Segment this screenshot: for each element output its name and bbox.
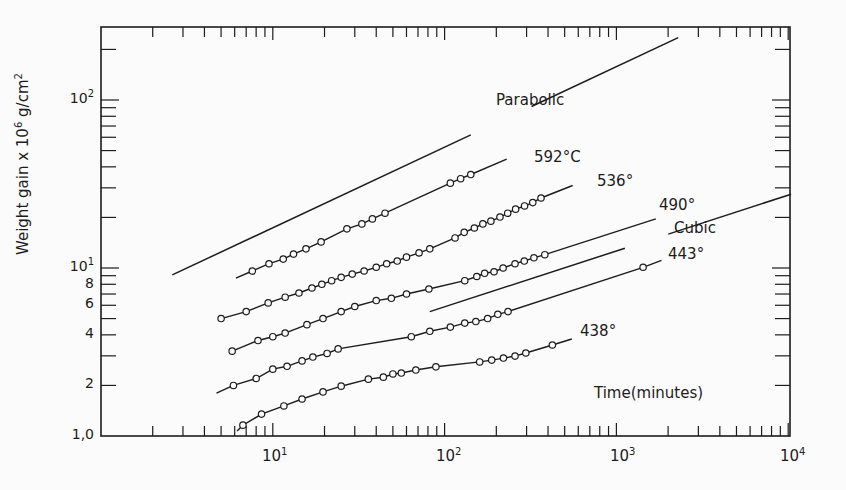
data-point [373,264,379,270]
data-point [500,355,506,361]
label-438: 438° [580,322,616,340]
data-point [426,286,432,292]
y-tick-label-10: 101 [54,258,94,274]
data-point [538,195,544,201]
data-point [521,258,527,264]
data-point [369,216,375,222]
data-point [521,203,527,209]
data-point [338,274,344,280]
y-axis-label: Weight gain x 106 g/cm2 [14,73,32,255]
data-point [229,348,235,354]
series-line [221,186,572,319]
y-tick-label-100: 102 [54,90,94,106]
data-point [481,270,487,276]
data-point [320,389,326,395]
data-point [218,315,224,321]
data-point [413,367,419,373]
data-point [258,411,264,417]
data-point [512,261,518,267]
data-point [281,403,287,409]
data-point [380,374,386,380]
x-tick-label-10: 101 [262,447,287,465]
data-point [310,354,316,360]
data-point [452,235,458,241]
data-point [383,261,389,267]
data-point [474,273,480,279]
data-point [471,225,477,231]
data-point [296,290,302,296]
data-point [476,359,482,365]
data-point [640,264,646,270]
data-point [495,311,501,317]
data-point [427,328,433,334]
data-point [318,239,324,245]
data-point [473,318,479,324]
chart-plot-area [0,0,846,490]
label-536: 536° [597,172,633,190]
data-point [344,226,350,232]
data-point [282,330,288,336]
data-point [319,281,325,287]
data-point [240,422,246,428]
data-point [280,256,286,262]
data-point [230,382,236,388]
data-point [500,265,506,271]
data-point [361,268,367,274]
data-point [542,251,548,257]
data-point [403,254,409,260]
data-point [447,180,453,186]
data-point [457,176,463,182]
data-point [284,363,290,369]
data-point [309,285,315,291]
data-point [255,337,261,343]
data-point [253,375,259,381]
data-point [266,261,272,267]
data-point [265,300,271,306]
data-point [488,218,494,224]
data-point [324,350,330,356]
data-point [352,303,358,309]
label-443: 443° [668,245,704,263]
label-parabolic: Parabolic [496,91,564,109]
data-point [433,364,439,370]
data-point [530,199,536,205]
data-point [243,308,249,314]
data-point [427,246,433,252]
data-point [320,315,326,321]
data-point [505,210,511,216]
data-point [304,321,310,327]
data-point [512,206,518,212]
data-point [461,229,467,235]
reference-line-cubic [430,248,625,311]
data-point [382,210,388,216]
data-point [299,396,305,402]
data-point [290,251,296,257]
x-tick-label-1000: 103 [610,447,635,465]
data-point [403,291,409,297]
data-point [505,308,511,314]
data-point [497,214,503,220]
data-point [491,269,497,275]
data-point [523,350,529,356]
data-point [335,346,341,352]
label-490: 490° [659,196,695,214]
x-axis-label: Time(minutes) [594,384,703,402]
data-point [270,334,276,340]
data-point [462,278,468,284]
data-point [468,171,474,177]
data-point [489,357,495,363]
data-point [299,358,305,364]
x-tick-label-10000: 104 [780,447,805,465]
label-592: 592°C [534,148,581,166]
data-point [408,334,414,340]
y-tick-label-2: 2 [54,375,94,391]
data-point [388,295,394,301]
y-tick-label-6: 6 [54,295,94,311]
data-point [365,376,371,382]
y-tick-label-1: 1,0 [54,426,94,442]
y-tick-label-4: 4 [54,325,94,341]
data-point [349,271,355,277]
data-point [398,370,404,376]
data-point [394,258,400,264]
data-point [549,342,555,348]
